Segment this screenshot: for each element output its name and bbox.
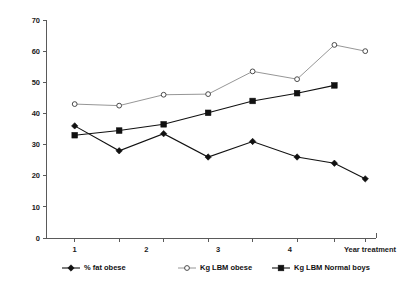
line-chart: 010203040506070 1234 Year treatment % fa…: [0, 0, 409, 283]
series-fat-obese: [71, 123, 368, 182]
data-point-circle-marker: [332, 43, 337, 48]
data-point-circle-marker: [72, 102, 77, 107]
data-point-circle-marker: [250, 69, 255, 74]
data-point-circle-marker: [161, 92, 166, 97]
y-axis: 010203040506070: [32, 16, 46, 243]
data-point-diamond-marker: [331, 160, 337, 166]
legend-swatch-square-marker: [278, 265, 284, 271]
data-point-diamond-marker: [362, 176, 368, 182]
series-kg-lbm-obese: [72, 43, 367, 109]
data-point-square-marker: [294, 90, 300, 96]
chart-canvas: 010203040506070 1234 Year treatment % fa…: [0, 0, 409, 283]
data-point-square-marker: [250, 98, 256, 104]
y-axis-tick-label: 0: [36, 234, 40, 243]
y-axis-tick-label: 40: [32, 109, 40, 118]
data-point-circle-marker: [117, 103, 122, 108]
x-axis: 1234: [46, 233, 376, 254]
data-point-diamond-marker: [160, 130, 166, 136]
data-point-square-marker: [205, 110, 211, 116]
legend-item-label: Kg LBM Normal boys: [294, 263, 370, 272]
legend-swatch-circle-marker: [185, 266, 190, 271]
legend-item-label: Kg LBM obese: [200, 263, 252, 272]
x-axis-tick-label: 4: [288, 245, 293, 254]
y-axis-tick-label: 30: [32, 140, 40, 149]
data-point-square-marker: [116, 128, 122, 134]
x-axis-tick-label: 2: [144, 245, 148, 254]
series-line: [75, 45, 366, 106]
legend-item-kg-lbm-obese[interactable]: Kg LBM obese: [178, 263, 252, 272]
data-point-diamond-marker: [249, 138, 255, 144]
data-point-square-marker: [161, 122, 167, 128]
data-point-square-marker: [72, 132, 78, 138]
x-axis-title-label: Year treatment: [344, 245, 397, 254]
y-axis-tick-label: 60: [32, 47, 40, 56]
y-axis-tick-label: 10: [32, 203, 40, 212]
data-point-square-marker: [332, 83, 338, 89]
x-axis-title: Year treatment: [344, 245, 397, 254]
legend-swatch-diamond-marker: [68, 265, 74, 271]
series-kg-lbm-normal-boys: [72, 83, 337, 138]
data-point-diamond-marker: [294, 154, 300, 160]
y-axis-tick-label: 50: [32, 78, 40, 87]
chart-legend: % fat obeseKg LBM obeseKg LBM Normal boy…: [62, 263, 370, 272]
y-axis-tick-label: 70: [32, 16, 40, 25]
legend-item-kg-lbm-normal-boys[interactable]: Kg LBM Normal boys: [272, 263, 370, 272]
x-axis-tick-label: 1: [73, 245, 77, 254]
x-axis-tick-label: 3: [216, 245, 220, 254]
data-point-circle-marker: [206, 92, 211, 97]
y-axis-tick-label: 20: [32, 171, 40, 180]
data-point-diamond-marker: [116, 148, 122, 154]
data-point-diamond-marker: [71, 123, 77, 129]
plot-series-group: [71, 43, 368, 183]
legend-item-label: % fat obese: [84, 263, 126, 272]
legend-item-fat-obese[interactable]: % fat obese: [62, 263, 126, 272]
data-point-circle-marker: [363, 49, 368, 54]
data-point-circle-marker: [295, 77, 300, 82]
data-point-diamond-marker: [205, 154, 211, 160]
